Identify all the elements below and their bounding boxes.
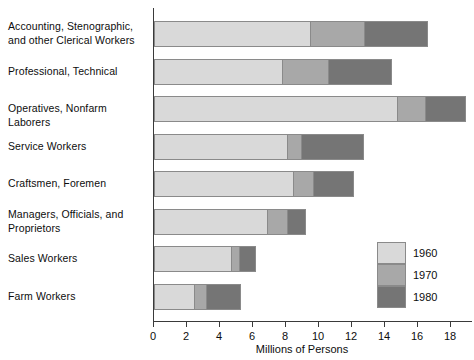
bar-segment-operatives-1960 bbox=[154, 96, 398, 122]
x-tick-label-18: 18 bbox=[444, 330, 456, 342]
bar-group-managers bbox=[154, 209, 306, 235]
x-tick-label-16: 16 bbox=[411, 330, 423, 342]
bar-group-professional bbox=[154, 59, 392, 85]
bar-group-service bbox=[154, 134, 364, 160]
x-tick-12 bbox=[351, 321, 352, 327]
category-label-clerical: Accounting, Stenographic, and other Cler… bbox=[8, 20, 150, 47]
category-label-line: Accounting, Stenographic, bbox=[8, 20, 150, 34]
bar-segment-service-1980 bbox=[302, 134, 363, 160]
x-tick-0 bbox=[153, 321, 154, 327]
category-label-line: Managers, Officials, and bbox=[8, 208, 150, 222]
bar-segment-sales-1970 bbox=[232, 246, 240, 272]
bar-segment-craftsmen-1980 bbox=[314, 171, 354, 197]
bar-segment-managers-1970 bbox=[268, 209, 288, 235]
x-tick-label-10: 10 bbox=[312, 330, 324, 342]
bar-segment-professional-1960 bbox=[154, 59, 283, 85]
legend-swatch-1970 bbox=[377, 264, 406, 286]
x-tick-label-14: 14 bbox=[378, 330, 390, 342]
x-tick-label-8: 8 bbox=[282, 330, 288, 342]
x-tick-18 bbox=[450, 321, 451, 327]
category-label-craftsmen: Craftsmen, Foremen bbox=[8, 177, 150, 191]
bar-segment-professional-1970 bbox=[283, 59, 329, 85]
bar-group-clerical bbox=[154, 21, 428, 47]
legend-swatch-1960 bbox=[377, 242, 406, 264]
bar-group-operatives bbox=[154, 96, 466, 122]
legend-label-1970: 1970 bbox=[413, 269, 437, 281]
bar-segment-operatives-1970 bbox=[398, 96, 426, 122]
bar-segment-farm-1980 bbox=[207, 284, 242, 310]
bar-segment-operatives-1980 bbox=[426, 96, 466, 122]
x-tick-6 bbox=[252, 321, 253, 327]
category-label-line: Operatives, Nonfarm Laborers bbox=[8, 102, 150, 129]
bar-segment-service-1960 bbox=[154, 134, 288, 160]
x-tick-4 bbox=[219, 321, 220, 327]
category-label-farm: Farm Workers bbox=[8, 290, 150, 304]
bar-segment-managers-1980 bbox=[288, 209, 306, 235]
x-tick-label-0: 0 bbox=[150, 330, 156, 342]
legend-swatch-1980 bbox=[377, 286, 406, 308]
bar-segment-craftsmen-1960 bbox=[154, 171, 294, 197]
bar-segment-farm-1970 bbox=[195, 284, 207, 310]
x-tick-label-6: 6 bbox=[249, 330, 255, 342]
bar-segment-clerical-1970 bbox=[311, 21, 365, 47]
category-label-line: Service Workers bbox=[8, 140, 150, 154]
category-label-service: Service Workers bbox=[8, 140, 150, 154]
category-label-managers: Managers, Officials, and Proprietors bbox=[8, 208, 150, 235]
x-tick-8 bbox=[285, 321, 286, 327]
category-label-line: Craftsmen, Foremen bbox=[8, 177, 150, 191]
bar-segment-farm-1960 bbox=[154, 284, 195, 310]
bar-segment-professional-1980 bbox=[329, 59, 392, 85]
legend-label-1960: 1960 bbox=[413, 247, 437, 259]
x-tick-2 bbox=[186, 321, 187, 327]
bar-segment-managers-1960 bbox=[154, 209, 268, 235]
x-axis-title-text: Millions of Persons bbox=[256, 343, 348, 355]
x-axis-title: Millions of Persons bbox=[0, 343, 474, 355]
x-tick-10 bbox=[318, 321, 319, 327]
bar-group-sales bbox=[154, 246, 256, 272]
category-label-operatives: Operatives, Nonfarm Laborers bbox=[8, 102, 150, 129]
bar-chart: Accounting, Stenographic, and other Cler… bbox=[0, 0, 474, 360]
legend-label-1980: 1980 bbox=[413, 291, 437, 303]
legend: 196019701980 bbox=[377, 242, 407, 309]
category-label-sales: Sales Workers bbox=[8, 252, 150, 266]
bar-segment-craftsmen-1970 bbox=[294, 171, 314, 197]
x-tick-label-4: 4 bbox=[216, 330, 222, 342]
category-label-line: Professional, Technical bbox=[8, 65, 150, 79]
x-tick-14 bbox=[384, 321, 385, 327]
x-tick-label-12: 12 bbox=[345, 330, 357, 342]
category-label-line: and other Clerical Workers bbox=[8, 34, 150, 48]
bar-segment-clerical-1980 bbox=[365, 21, 428, 47]
bar-segment-service-1970 bbox=[288, 134, 303, 160]
x-tick-16 bbox=[417, 321, 418, 327]
x-tick-label-2: 2 bbox=[183, 330, 189, 342]
y-axis-line bbox=[153, 8, 154, 322]
category-label-line: Sales Workers bbox=[8, 252, 150, 266]
bar-group-craftsmen bbox=[154, 171, 354, 197]
category-label-line: Proprietors bbox=[8, 222, 150, 236]
bar-segment-sales-1980 bbox=[240, 246, 257, 272]
bar-group-farm bbox=[154, 284, 241, 310]
category-label-line: Farm Workers bbox=[8, 290, 150, 304]
bar-segment-clerical-1960 bbox=[154, 21, 311, 47]
bar-segment-sales-1960 bbox=[154, 246, 232, 272]
category-label-professional: Professional, Technical bbox=[8, 65, 150, 79]
x-axis-line bbox=[153, 321, 472, 322]
